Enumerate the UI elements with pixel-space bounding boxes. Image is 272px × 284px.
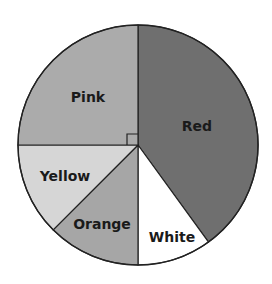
slice-label-pink: Pink	[71, 89, 106, 105]
slice-label-white: White	[149, 229, 195, 245]
slice-label-red: Red	[182, 118, 212, 134]
pie-chart: RedWhiteOrangeYellowPink	[0, 0, 272, 284]
slice-label-orange: Orange	[73, 216, 131, 232]
slice-label-yellow: Yellow	[39, 168, 91, 184]
pie-slice-pink	[18, 25, 138, 145]
pie-slices	[18, 25, 258, 265]
